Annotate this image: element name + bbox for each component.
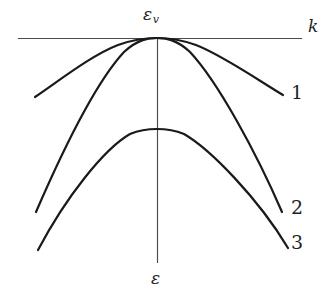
band-structure-figure: εv k ε 1 2 3 bbox=[0, 0, 336, 306]
band-curve-2 bbox=[36, 38, 282, 212]
valence-band-edge-label: εv bbox=[143, 6, 158, 23]
valence-band-edge-subscript: v bbox=[153, 13, 159, 26]
k-axis-label: k bbox=[308, 18, 318, 35]
valence-band-edge-symbol: ε bbox=[143, 4, 152, 24]
band-label-1: 1 bbox=[291, 83, 303, 102]
band-diagram-canvas bbox=[0, 0, 336, 306]
band-curve-1 bbox=[35, 38, 283, 97]
band-label-2: 2 bbox=[291, 198, 303, 217]
energy-axis-label: ε bbox=[151, 270, 160, 287]
band-label-3: 3 bbox=[291, 233, 303, 252]
